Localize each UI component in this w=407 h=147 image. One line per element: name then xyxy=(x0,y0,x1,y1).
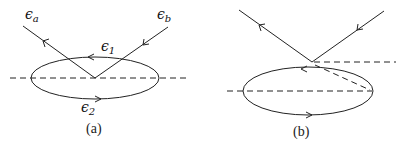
incoming-line-b xyxy=(312,11,384,62)
label-epsilon-1: ϵ1 xyxy=(101,38,115,56)
label-epsilon-2: ϵ2 xyxy=(81,99,95,117)
outgoing-line-b xyxy=(239,10,312,62)
diagram-a: ϵa ϵb ϵ1 ϵ2 (a) xyxy=(10,6,188,137)
caption-a: (a) xyxy=(86,121,102,137)
label-epsilon-a: ϵa xyxy=(25,6,39,24)
label-epsilon-b: ϵb xyxy=(157,6,171,24)
caption-b: (b) xyxy=(293,124,310,140)
outgoing-line-a xyxy=(23,26,95,78)
feynman-diagrams: ϵa ϵb ϵ1 ϵ2 (a) (b) xyxy=(0,0,407,147)
diagram-b: (b) xyxy=(227,10,396,140)
